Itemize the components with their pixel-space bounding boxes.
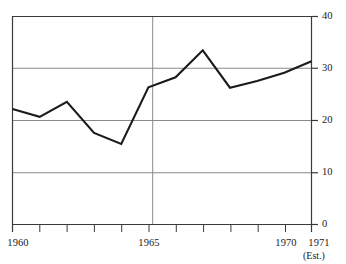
x-axis-label-1965: 1965	[131, 237, 167, 248]
chart-canvas	[0, 0, 346, 264]
x-axis-label-1970: 1970	[268, 237, 304, 248]
x-axis-ticks	[13, 225, 312, 232]
x-axis-label-1960: 1960	[0, 237, 36, 248]
estimate-note: (Est.)	[303, 250, 325, 261]
y-axis-label-40: 40	[322, 10, 333, 21]
y-axis-ticks	[312, 17, 318, 225]
y-axis-label-30: 30	[322, 62, 333, 73]
line-chart: 40 30 20 10 0 1960 1965 1970 1971 (Est.)	[0, 0, 346, 264]
x-axis-label-1971: 1971	[301, 237, 337, 248]
y-axis-label-20: 20	[322, 114, 333, 125]
y-axis-label-0: 0	[322, 218, 327, 229]
y-axis-label-10: 10	[322, 166, 333, 177]
